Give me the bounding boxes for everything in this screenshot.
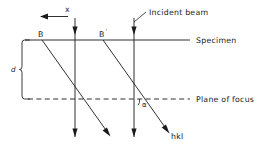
point-b-prime-mark: ' [106,28,108,34]
alpha-angle-marker [138,99,139,105]
specimen-label: Specimen [196,36,236,45]
figure-canvas: x Incident beam Specimen Plane of focus [0,0,273,154]
x-axis-label: x [65,5,70,14]
hkl-label: hkl [171,132,183,141]
point-b-prime-label: B [99,30,105,39]
depth-label: d [11,65,16,74]
diffracted-ray-b-prime [103,40,170,134]
incident-beam-ray-1 [72,18,77,137]
plane-of-focus-label: Plane of focus [196,95,254,104]
incident-beam-leader [134,12,146,22]
x-direction-arrow [40,14,68,20]
ray-diagram-svg: x Incident beam Specimen Plane of focus [0,0,273,154]
incident-beam-ray-2 [131,18,136,137]
point-b-label: B [38,30,44,39]
diffracted-ray-b [42,40,111,137]
incident-beam-label: Incident beam [149,8,208,17]
alpha-label: α [142,101,147,109]
depth-brace [20,40,30,99]
